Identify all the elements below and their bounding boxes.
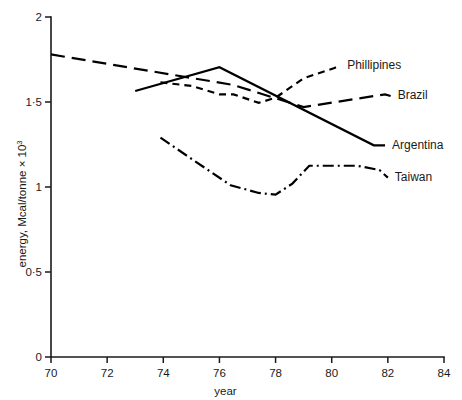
data-series-group — [51, 54, 391, 194]
x-axis-title: year — [214, 385, 237, 397]
x-axis-ticks: 7072747678808284 — [45, 357, 451, 379]
x-tick-label: 72 — [101, 367, 114, 379]
y-axis-title-exponent: 3 — [15, 140, 24, 144]
x-tick-label: 70 — [45, 367, 58, 379]
series-label-brazil: Brazil — [398, 88, 428, 102]
y-axis-ticks: 00·511·52 — [25, 11, 51, 363]
x-tick-label: 80 — [325, 367, 338, 379]
series-label-taiwan: Taiwan — [395, 170, 432, 184]
y-axis-title-text: energy, Mcal/tonne × 10 — [16, 145, 28, 268]
x-tick-label: 82 — [381, 367, 394, 379]
line-chart: 00·511·52 7072747678808284 PhillipinesBr… — [0, 0, 462, 400]
chart-container: 00·511·52 7072747678808284 PhillipinesBr… — [0, 0, 462, 400]
series-line-phillipines — [160, 65, 340, 102]
y-tick-label: 1 — [36, 181, 42, 193]
x-tick-label: 78 — [269, 367, 282, 379]
series-line-argentina — [135, 67, 385, 145]
y-tick-label: 0 — [36, 351, 42, 363]
x-tick-label: 76 — [213, 367, 226, 379]
svg-text:energy, Mcal/tonne × 103: energy, Mcal/tonne × 103 — [15, 140, 28, 267]
y-tick-label: 2 — [36, 11, 42, 23]
series-labels-group: PhillipinesBrazilArgentinaTaiwan — [347, 58, 444, 184]
series-line-taiwan — [160, 138, 387, 195]
y-axis-title: energy, Mcal/tonne × 103 — [15, 140, 28, 267]
series-line-brazil — [51, 54, 391, 107]
x-tick-label: 74 — [157, 367, 170, 379]
series-label-argentina: Argentina — [392, 138, 444, 152]
x-tick-label: 84 — [438, 367, 451, 379]
series-label-phillipines: Phillipines — [347, 58, 401, 72]
y-tick-label: 1·5 — [25, 96, 42, 108]
